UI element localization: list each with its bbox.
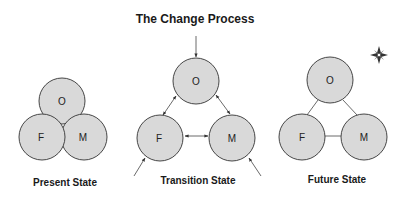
transition-state-group: O F M Transition State [134, 36, 261, 186]
future-o-label: O [326, 75, 334, 86]
present-state-group: O F M Present State [19, 78, 107, 188]
present-state-label: Present State [33, 177, 97, 188]
future-state-label: Future State [308, 174, 367, 185]
change-process-diagram: The Change Process O F M Present State O… [0, 0, 412, 197]
line-o-m [343, 100, 357, 115]
transition-state-label: Transition State [160, 175, 235, 186]
present-m-label: M [79, 132, 87, 143]
arrow-into-m-icon [249, 158, 261, 176]
diagram-title: The Change Process [136, 12, 255, 26]
future-state-group: O F M Future State [279, 57, 387, 185]
transition-m-label: M [228, 133, 236, 144]
arrow-f-o-icon [163, 96, 176, 115]
present-f-label: F [38, 132, 44, 143]
line-o-f [307, 100, 318, 115]
transition-f-label: F [156, 133, 162, 144]
arrow-into-f-icon [134, 158, 145, 176]
future-m-label: M [360, 132, 368, 143]
arrow-o-m-icon [216, 95, 230, 114]
transition-o-label: O [192, 76, 200, 87]
future-f-label: F [299, 132, 305, 143]
present-o-label: O [58, 96, 66, 107]
compass-rose-icon [370, 46, 388, 64]
